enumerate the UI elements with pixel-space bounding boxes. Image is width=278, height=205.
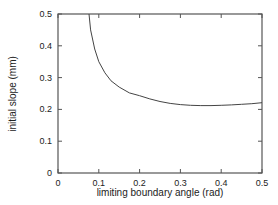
y-tick-label: 0.2 bbox=[39, 104, 52, 114]
line-chart: 00.10.20.30.40.500.10.20.30.40.5 limitin… bbox=[0, 0, 278, 205]
y-tick-label: 0.3 bbox=[39, 73, 52, 83]
x-tick-label: 0 bbox=[55, 178, 60, 188]
x-axis-label: limiting boundary angle (rad) bbox=[97, 187, 224, 198]
y-axis-label: initial slope (mm) bbox=[7, 56, 18, 132]
y-tick-label: 0.1 bbox=[39, 136, 52, 146]
plot-frame bbox=[58, 14, 262, 173]
y-tick-label: 0 bbox=[47, 168, 52, 178]
x-tick-label: 0.5 bbox=[256, 178, 269, 188]
data-line bbox=[89, 14, 262, 106]
y-tick-label: 0.4 bbox=[39, 41, 52, 51]
y-tick-label: 0.5 bbox=[39, 9, 52, 19]
plot-area: 00.10.20.30.40.500.10.20.30.40.5 bbox=[39, 9, 268, 188]
